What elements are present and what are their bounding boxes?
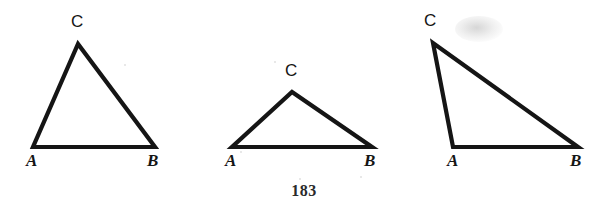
scanned-figure-page: C A B C A B C A B 183 (0, 0, 608, 213)
triangle-2-vertex-label-a: A (225, 152, 236, 169)
triangle-3-vertex-label-c: C (424, 12, 436, 29)
triangle-3-vertex-label-a: A (447, 152, 458, 169)
triangle-1-outline (33, 44, 155, 147)
triangle-1-vertex-label-b: B (147, 152, 158, 169)
triangle-3-scalene (433, 43, 578, 147)
triangle-1-vertex-label-c: C (71, 13, 83, 30)
triangle-3-outline (433, 43, 578, 147)
triangle-1-acute (33, 44, 155, 147)
triangle-2-outline (232, 92, 372, 147)
triangle-2-vertex-label-c: C (285, 62, 297, 79)
triangle-2-flat (232, 92, 372, 147)
triangle-3-vertex-label-b: B (570, 152, 581, 169)
triangle-1-vertex-label-a: A (26, 152, 37, 169)
triangle-2-vertex-label-b: B (364, 152, 375, 169)
page-number: 183 (0, 182, 608, 200)
